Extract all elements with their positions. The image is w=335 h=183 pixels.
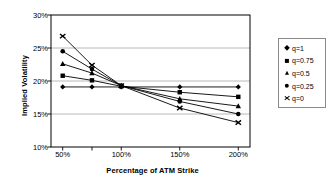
legend-item-q075[interactable]: q=0.75 [282, 55, 325, 68]
x-axis-title: Percentage of ATM Strike [45, 166, 260, 175]
y-tick-25: 25% [22, 44, 48, 53]
series-line [63, 51, 239, 114]
marker-square [236, 95, 240, 99]
x-tick-100: 100% [101, 150, 141, 159]
x-tick-50: 50% [43, 150, 83, 159]
marker-square [61, 74, 65, 78]
series-q075 [61, 74, 241, 100]
legend: q=1q=0.75q=0.5q=0.25q=0 [278, 38, 326, 108]
legend-label: q=0.5 [292, 70, 310, 77]
marker-diamond [177, 84, 182, 89]
series-line [63, 64, 239, 106]
marker-triangle [60, 61, 65, 66]
legend-label: q=1 [292, 45, 304, 52]
legend-label: q=0.75 [292, 57, 314, 64]
marker-diamond [89, 84, 94, 89]
legend-item-q05[interactable]: q=0.5 [282, 67, 325, 80]
marker-square [178, 90, 182, 94]
x-tick-200: 200% [218, 150, 258, 159]
marker-diamond [60, 84, 65, 89]
marker-circle [236, 112, 241, 117]
y-tick-20: 20% [22, 77, 48, 86]
legend-item-q1[interactable]: q=1 [282, 42, 325, 55]
legend-item-q0[interactable]: q=0 [282, 92, 325, 105]
legend-marker-square-icon [282, 56, 291, 65]
marker-square [90, 78, 94, 82]
marker-circle [177, 99, 182, 104]
marker-circle [90, 67, 95, 72]
legend-label: q=0.25 [292, 83, 314, 90]
legend-label: q=0 [292, 95, 304, 102]
marker-diamond [236, 84, 241, 89]
y-tick-15: 15% [22, 110, 48, 119]
series-line [63, 36, 239, 122]
series-q025 [60, 49, 240, 116]
legend-marker-x-icon [282, 94, 291, 103]
series-q1 [60, 84, 241, 89]
chart-figure: Implied Volatility 10%15%20%25%30% 50%10… [0, 0, 335, 183]
legend-item-q025[interactable]: q=0.25 [282, 80, 325, 93]
legend-marker-triangle-icon [282, 69, 291, 78]
series-q05 [60, 61, 241, 108]
marker-circle [60, 49, 65, 54]
x-tick-150: 150% [160, 150, 200, 159]
y-tick-30: 30% [22, 11, 48, 20]
legend-marker-diamond-icon [282, 44, 291, 53]
legend-marker-circle-icon [282, 82, 291, 91]
